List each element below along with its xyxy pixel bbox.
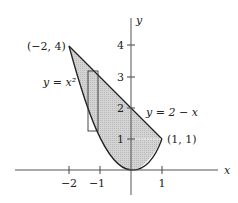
x-tick-label--2: −2 <box>61 177 77 190</box>
line-label: y = 2 − x <box>145 106 199 119</box>
parabola-label: y = x² <box>42 76 76 89</box>
x-tick-label-1: 1 <box>159 177 166 190</box>
y-axis-label: y <box>135 14 143 27</box>
point-label-left: (−2, 4) <box>27 40 66 53</box>
point-label-right: (1, 1) <box>167 133 197 146</box>
y-tick-label-4: 4 <box>117 39 124 52</box>
x-axis-label: x <box>224 164 231 177</box>
y-tick-label-1: 1 <box>117 133 124 146</box>
y-tick-label-2: 2 <box>117 102 124 115</box>
x-tick-label--1: −1 <box>89 177 105 190</box>
region-diagram: −2 −1 1 1 2 3 4 x y y = x² y = 2 − x (−2… <box>0 0 238 203</box>
y-tick-label-3: 3 <box>117 71 124 84</box>
